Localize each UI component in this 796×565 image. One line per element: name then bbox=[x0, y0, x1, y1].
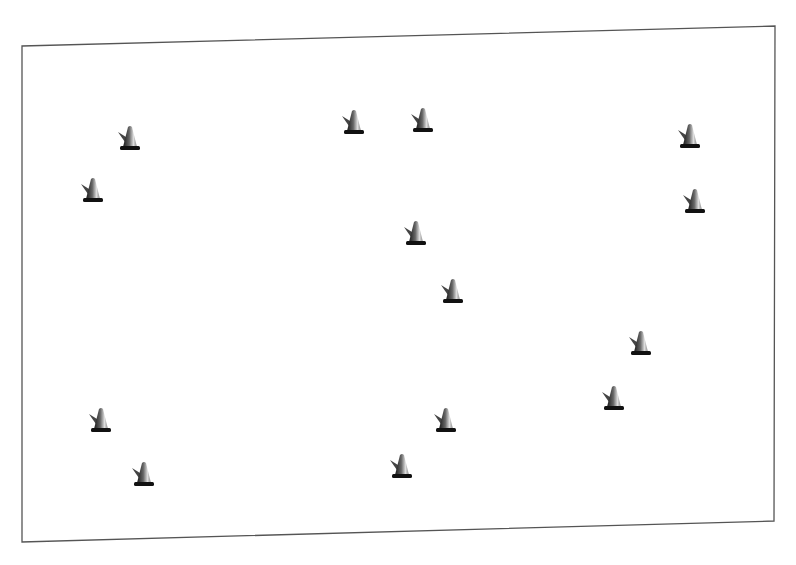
field-diagram bbox=[0, 0, 796, 565]
